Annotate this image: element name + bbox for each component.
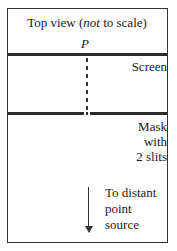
title-italic: not — [83, 15, 100, 30]
point-p-label: P — [81, 36, 89, 52]
title-suffix: to scale) — [100, 15, 147, 30]
mask-label-line-2: with — [136, 134, 167, 149]
mask-label: Mask with 2 slits — [136, 119, 167, 164]
source-label-line-2: point — [105, 201, 156, 217]
mask-label-line-1: Mask — [136, 119, 167, 134]
source-label-line-3: source — [105, 217, 156, 233]
mask-label-line-3: 2 slits — [136, 149, 167, 164]
source-label: To distant point source — [105, 185, 156, 233]
diagram-title: Top view (not to scale) — [7, 15, 167, 31]
title-prefix: Top view ( — [27, 15, 83, 30]
center-dashed-line — [86, 58, 88, 112]
arrow-head-icon — [85, 226, 93, 233]
mask-slit-divider — [86, 112, 88, 115]
screen-label: Screen — [132, 59, 167, 74]
mask-line-right — [90, 112, 167, 115]
arrow-down-icon — [88, 187, 89, 228]
screen-line — [8, 53, 167, 56]
mask-line-left — [8, 112, 84, 115]
source-label-line-1: To distant — [105, 185, 156, 201]
